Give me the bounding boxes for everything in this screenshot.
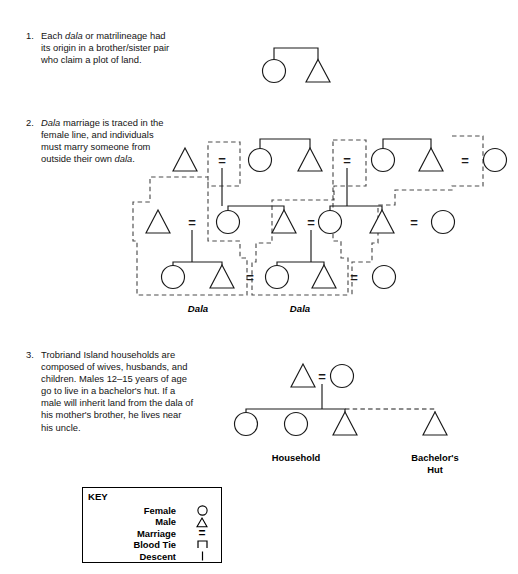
marriage-symbol: =	[318, 370, 326, 383]
key-label: Male	[83, 517, 195, 526]
female-circle	[331, 365, 354, 388]
marriage-symbol: =	[461, 154, 469, 167]
female-circle	[373, 266, 396, 289]
bachelor-hut-caption: Bachelor'sHut	[411, 452, 459, 475]
female-circle	[235, 413, 258, 436]
key-label: Descent	[83, 552, 195, 561]
female-circle	[249, 149, 272, 172]
sibling-bracket	[173, 262, 222, 266]
note-number: 3.	[26, 349, 41, 434]
male-triangle	[306, 60, 330, 83]
marriage-symbol: =	[343, 154, 351, 167]
female-circle	[372, 149, 395, 172]
household-caption: Household	[272, 452, 320, 464]
male-triangle	[370, 210, 394, 233]
diagram-2-figure	[0, 0, 518, 574]
marriage-symbol: =	[218, 154, 226, 167]
bachelor-hut-link	[345, 409, 435, 413]
key-row-descent: Descent	[83, 551, 221, 562]
female-circle	[266, 266, 289, 289]
marriage-symbol: =	[307, 216, 315, 229]
equals-glyph: =	[198, 527, 205, 539]
note-item-3: 3. Trobriand Island households are compo…	[26, 349, 194, 434]
diagram-1-figure	[0, 0, 518, 574]
male-triangle	[210, 265, 234, 288]
note-number: 2.	[26, 117, 41, 165]
sibling-bracket	[330, 206, 382, 211]
dala-boundary-layer	[0, 0, 518, 574]
dala-label: Dala	[188, 304, 208, 314]
kinship-diagram-page: 1. Each dala or matrilineage had its ori…	[0, 0, 518, 574]
male-triangle	[419, 148, 443, 171]
male-triangle	[298, 148, 322, 171]
key-label: Marriage	[83, 529, 195, 538]
key-row-blood-tie: Blood Tie	[83, 539, 221, 550]
note-text: Trobriand Island households are composed…	[41, 349, 194, 434]
note-item-1: 1. Each dala or matrilineage had its ori…	[26, 30, 176, 66]
marriage-symbol: =	[410, 216, 418, 229]
key-label: Female	[83, 506, 195, 515]
key-rows: Female Male Marriage =	[83, 505, 221, 562]
male-triangle	[146, 210, 170, 233]
sibling-bracket	[274, 48, 318, 60]
female-circle	[484, 149, 507, 172]
female-circle	[263, 60, 286, 83]
male-triangle	[312, 265, 336, 288]
note-text: Each dala or matrilineage had its origin…	[41, 30, 176, 66]
marriage-symbol: =	[188, 216, 196, 229]
key-title: KEY	[88, 492, 108, 502]
male-triangle	[333, 412, 357, 435]
key-row-female: Female	[83, 505, 221, 516]
diagram-3-figure	[0, 0, 518, 574]
note-text: Dala marriage is traced in the female li…	[41, 117, 176, 165]
note-number: 1.	[26, 30, 41, 66]
female-circle	[319, 211, 342, 234]
equals-icon: =	[195, 528, 209, 539]
male-triangle	[291, 364, 315, 387]
female-circle	[162, 266, 185, 289]
dala-label: Dala	[290, 304, 310, 314]
male-triangle	[173, 148, 197, 171]
key-legend-box: KEY Female Male Marriage	[82, 487, 222, 563]
bracket-icon	[195, 539, 209, 550]
sibling-bracket	[277, 262, 324, 266]
male-triangle	[272, 210, 296, 233]
sibling-bracket	[383, 139, 431, 149]
female-circle	[432, 211, 455, 234]
female-circle	[285, 413, 308, 436]
sibling-bracket	[228, 206, 284, 211]
sibling-bracket	[260, 139, 310, 149]
marriage-symbol: =	[246, 271, 254, 284]
male-triangle	[423, 412, 447, 435]
female-circle	[217, 211, 240, 234]
key-label: Blood Tie	[83, 540, 195, 549]
vertical-line-icon	[195, 551, 209, 562]
key-row-marriage: Marriage =	[83, 528, 221, 539]
sibling-bracket	[246, 409, 345, 413]
marriage-symbol: =	[350, 271, 358, 284]
note-item-2: 2. Dala marriage is traced in the female…	[26, 117, 176, 165]
circle-icon	[195, 505, 209, 516]
